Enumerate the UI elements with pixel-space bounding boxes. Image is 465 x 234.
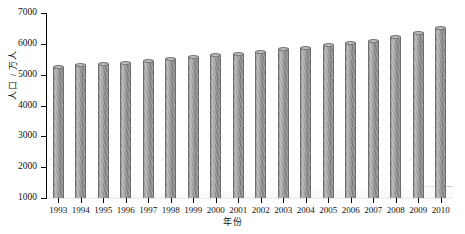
x-tick-label: 1994 bbox=[70, 205, 93, 215]
x-tick-label: 2009 bbox=[407, 205, 430, 215]
y-tick-label: 6000 bbox=[0, 39, 37, 48]
bar bbox=[98, 64, 109, 198]
bar bbox=[323, 45, 334, 198]
y-tick-mark bbox=[41, 198, 47, 199]
y-tick-label: 2000 bbox=[0, 162, 37, 171]
x-tick-mark bbox=[103, 198, 104, 203]
x-tick-mark bbox=[171, 198, 172, 203]
x-tick-label: 2002 bbox=[250, 205, 273, 215]
bar bbox=[390, 37, 401, 198]
x-tick-mark bbox=[306, 198, 307, 203]
x-tick-label: 1999 bbox=[182, 205, 205, 215]
x-axis-title: 年份 bbox=[0, 215, 465, 228]
x-tick-label: 2003 bbox=[272, 205, 295, 215]
x-tick-mark bbox=[396, 198, 397, 203]
x-tick-mark bbox=[261, 198, 262, 203]
x-tick-label: 2001 bbox=[227, 205, 250, 215]
x-tick-mark bbox=[351, 198, 352, 203]
x-tick-label: 2007 bbox=[362, 205, 385, 215]
x-tick-mark bbox=[283, 198, 284, 203]
x-tick-mark bbox=[216, 198, 217, 203]
y-tick-label: 7000 bbox=[0, 8, 37, 17]
y-tick-label: 4000 bbox=[0, 101, 37, 110]
bar bbox=[210, 55, 221, 198]
y-tick-label: 1000 bbox=[0, 193, 37, 202]
x-tick-mark bbox=[238, 198, 239, 203]
x-tick-label: 1993 bbox=[47, 205, 70, 215]
bar bbox=[255, 52, 266, 198]
x-tick-mark bbox=[418, 198, 419, 203]
bar bbox=[345, 43, 356, 198]
bar bbox=[368, 41, 379, 198]
bar bbox=[300, 48, 311, 198]
bar bbox=[233, 54, 244, 198]
x-tick-mark bbox=[126, 198, 127, 203]
y-tick-label: 3000 bbox=[0, 131, 37, 140]
x-tick-label: 2010 bbox=[430, 205, 453, 215]
y-tick-label: 5000 bbox=[0, 70, 37, 79]
bar bbox=[75, 65, 86, 198]
x-tick-label: 1996 bbox=[115, 205, 138, 215]
bar bbox=[188, 57, 199, 198]
x-tick-mark bbox=[193, 198, 194, 203]
x-tick-mark bbox=[373, 198, 374, 203]
x-tick-mark bbox=[81, 198, 82, 203]
x-tick-label: 2000 bbox=[205, 205, 228, 215]
x-tick-mark bbox=[441, 198, 442, 203]
x-tick-label: 2006 bbox=[340, 205, 363, 215]
x-tick-label: 2008 bbox=[385, 205, 408, 215]
x-tick-label: 2005 bbox=[317, 205, 340, 215]
x-tick-mark bbox=[328, 198, 329, 203]
x-tick-label: 1998 bbox=[160, 205, 183, 215]
x-tick-label: 1995 bbox=[92, 205, 115, 215]
x-tick-label: 1997 bbox=[137, 205, 160, 215]
bar bbox=[120, 63, 131, 198]
bar bbox=[278, 49, 289, 198]
bar bbox=[165, 59, 176, 198]
x-tick-mark bbox=[58, 198, 59, 203]
plot-area bbox=[47, 13, 453, 198]
x-tick-mark bbox=[148, 198, 149, 203]
population-bar-chart: 人口 / 万人 1000200030004000500060007000 199… bbox=[0, 0, 465, 234]
bar bbox=[143, 61, 154, 198]
bar bbox=[53, 67, 64, 198]
bar bbox=[413, 33, 424, 198]
x-tick-label: 2004 bbox=[295, 205, 318, 215]
bar bbox=[435, 28, 446, 198]
